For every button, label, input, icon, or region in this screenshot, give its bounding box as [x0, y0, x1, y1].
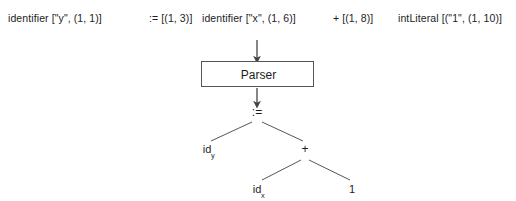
parser-box: Parser — [201, 61, 314, 87]
tree-node-assign: := — [252, 106, 262, 118]
token-identifier-y: identifier ["y", (1, 1)] — [8, 11, 102, 25]
tree-node-id-x-subscript: x — [261, 191, 265, 200]
diagram-canvas: identifier ["y", (1, 1)] := [(1, 3)] ide… — [0, 0, 516, 201]
diagram-lines-layer — [0, 0, 516, 201]
tree-node-one-label: 1 — [349, 183, 355, 195]
tree-node-id-x: idx — [253, 183, 265, 200]
tree-node-plus-label: + — [301, 142, 308, 156]
tree-node-plus: + — [301, 143, 308, 155]
tree-node-id-y: idy — [203, 143, 215, 160]
tree-edge-root-to-id-y — [211, 122, 252, 141]
token-stream-row: identifier ["y", (1, 1)] := [(1, 3)] ide… — [0, 11, 516, 27]
tree-edge-plus-to-one — [309, 160, 350, 180]
token-int-literal: intLiteral [("1", (1, 10)] — [398, 11, 502, 25]
token-plus: + [(1, 8)] — [333, 11, 373, 25]
tree-edge-plus-to-id-x — [262, 160, 301, 180]
token-assign: := [(1, 3)] — [149, 11, 192, 25]
tree-edge-root-to-plus — [262, 122, 303, 141]
tree-node-assign-label: := — [252, 105, 262, 119]
tree-node-one: 1 — [349, 183, 355, 195]
parser-label: Parser — [202, 62, 315, 88]
tree-node-id-y-subscript: y — [211, 151, 215, 160]
token-identifier-x: identifier ["x", (1, 6)] — [202, 11, 296, 25]
